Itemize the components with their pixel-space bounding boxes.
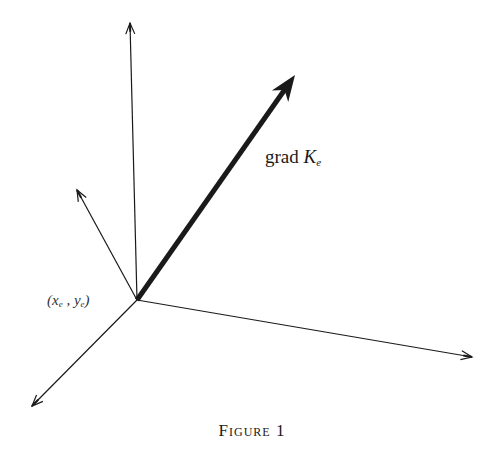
right-axis-arrow [137, 300, 472, 360]
separator: , [63, 292, 74, 308]
lower-left-axis-arrow [32, 300, 137, 406]
lower-left-axis-shaft [32, 300, 137, 406]
arrowhead-icon [272, 75, 295, 102]
grad-vector-arrow [137, 75, 295, 300]
vertical-axis-arrow [126, 23, 137, 300]
grad-subscript: e [316, 156, 321, 168]
origin-x: x [52, 292, 59, 308]
grad-label: grad Ke [265, 146, 321, 168]
paren-close: ) [85, 292, 90, 308]
origin-y: y [74, 292, 81, 308]
vectors-group [32, 23, 472, 406]
origin-label: (xe , ye) [47, 292, 90, 309]
grad-prefix: grad [265, 146, 304, 167]
upper-left-vector-arrow [77, 190, 137, 300]
vertical-axis-shaft [130, 23, 137, 300]
grad-vector-shaft [137, 88, 286, 300]
vector-diagram [0, 0, 504, 459]
grad-symbol: K [304, 146, 317, 167]
upper-left-vector-shaft [77, 190, 137, 300]
figure-caption: Figure 1 [0, 421, 504, 441]
right-axis-shaft [137, 300, 472, 357]
arrowhead-icon [77, 190, 86, 202]
